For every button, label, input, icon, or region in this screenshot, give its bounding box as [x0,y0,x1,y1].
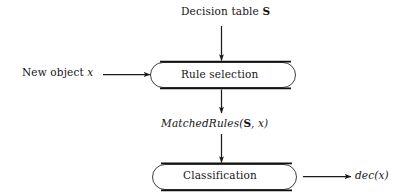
decision-table-text: Decision table [181,5,259,17]
matched-rules-function: MatchedRules [161,117,239,129]
matched-rules-paren-close: ) [264,117,268,129]
decision-table-symbol: S [262,5,269,17]
diagram-canvas [0,0,405,196]
new-object-text: New object [22,66,84,78]
decision-table-label: Decision table S [181,5,270,17]
new-object-label: New object x [22,66,93,78]
dec-paren-close: ) [385,169,389,181]
matched-rules-symbol: S [244,117,251,129]
new-object-variable: x [87,66,93,78]
matched-rules-separator: , [251,117,258,129]
classification-label: Classification [183,169,257,181]
matched-rules-label: MatchedRules(S, x) [161,117,268,129]
dec-function: dec [355,169,374,181]
flow-diagram: Decision table S New object x Rule selec… [0,0,405,196]
dec-output-label: dec(x) [355,169,389,181]
rule-selection-label: Rule selection [181,68,258,80]
